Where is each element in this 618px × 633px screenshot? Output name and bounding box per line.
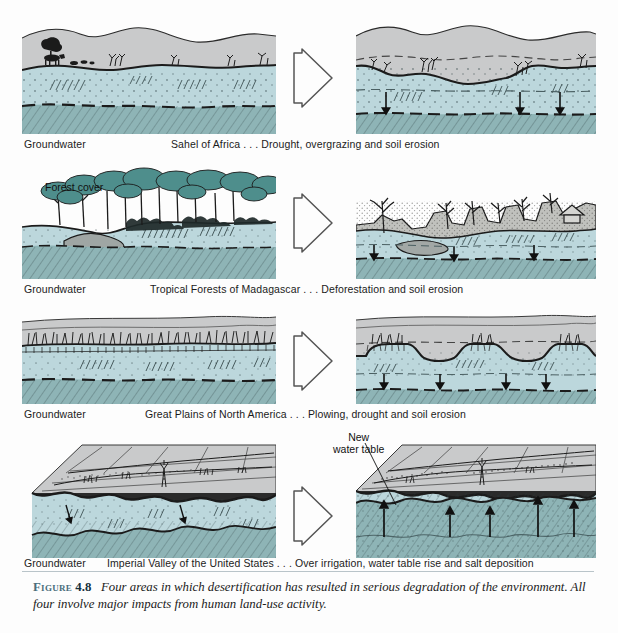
sahel-row-caption: Sahel of Africa . . . Drought, overgrazi…	[171, 138, 440, 150]
new-water-table-line1: New	[348, 431, 369, 443]
figure-caption-text: Four areas in which desertification has …	[33, 580, 586, 611]
figure-caption: Figure 4.8 Four areas in which desertifi…	[33, 579, 593, 613]
madagascar-row-caption: Tropical Forests of Madagascar . . . Def…	[150, 283, 463, 295]
great-plains-transition-arrow	[288, 330, 336, 396]
imperial-valley-groundwater-label: Groundwater	[24, 557, 86, 569]
imperial-valley-before-panel	[22, 443, 276, 558]
madagascar-transition-arrow	[288, 192, 336, 258]
madagascar-forest-cover-label: Forest cover	[45, 181, 103, 193]
row-imperial-valley: New water table Groundwater Imperial Val…	[0, 443, 618, 568]
madagascar-after-panel	[356, 167, 596, 279]
figure-page: Groundwater Sahel of Africa . . . Drough…	[0, 0, 618, 633]
figure-number-label: Figure	[33, 580, 72, 594]
new-water-table-callout: New water table	[333, 431, 384, 455]
sahel-groundwater-label: Groundwater	[24, 138, 86, 150]
great-plains-row-caption: Great Plains of North America . . . Plow…	[145, 408, 466, 420]
imperial-valley-row-caption: Imperial Valley of the United States . .…	[107, 557, 534, 569]
great-plains-groundwater-label: Groundwater	[24, 408, 86, 420]
madagascar-groundwater-label: Groundwater	[24, 283, 86, 295]
row-sahel: Groundwater Sahel of Africa . . . Drough…	[0, 22, 618, 142]
new-water-table-line2: water table	[333, 443, 384, 455]
sahel-after-panel	[356, 22, 596, 134]
sahel-before-panel	[22, 22, 276, 134]
imperial-valley-transition-arrow	[288, 485, 336, 551]
great-plains-after-panel	[356, 312, 596, 404]
sahel-transition-arrow	[288, 47, 336, 113]
great-plains-before-panel	[22, 312, 276, 404]
row-madagascar: Forest cover Groundwater Tropical Forest…	[0, 167, 618, 289]
imperial-valley-after-panel	[356, 443, 596, 558]
row-great-plains: Groundwater Great Plains of North Americ…	[0, 312, 618, 422]
figure-number: 4.8	[75, 580, 91, 594]
caption-divider	[22, 571, 594, 572]
